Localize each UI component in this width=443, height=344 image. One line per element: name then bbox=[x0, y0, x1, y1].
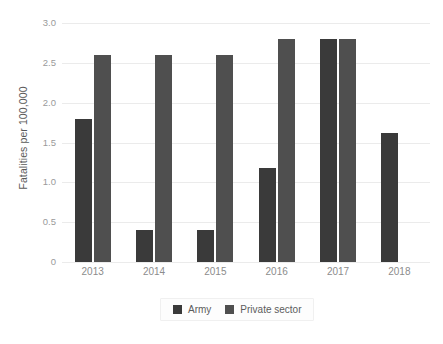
bar-group bbox=[259, 23, 295, 262]
legend-swatch-icon bbox=[225, 305, 234, 314]
y-tick-label: 1.5 bbox=[26, 138, 56, 148]
bar-private-sector-2015 bbox=[216, 55, 233, 262]
y-tick-label: 0.5 bbox=[26, 217, 56, 227]
gridline bbox=[62, 23, 430, 24]
legend-label: Private sector bbox=[240, 304, 301, 315]
x-tick-label-2014: 2014 bbox=[127, 265, 181, 279]
bar-army-2018 bbox=[381, 133, 398, 262]
bar-group bbox=[320, 23, 356, 262]
bar-private-sector-2014 bbox=[155, 55, 172, 262]
bar-army-2015 bbox=[197, 230, 214, 262]
legend-entry-private-sector[interactable]: Private sector bbox=[225, 304, 301, 315]
gridline bbox=[62, 222, 430, 223]
x-axis-tick-labels: 201320142015201620172018 bbox=[62, 265, 430, 281]
x-tick-label-2017: 2017 bbox=[311, 265, 365, 279]
x-tick-label-2016: 2016 bbox=[250, 265, 304, 279]
y-tick-label: 2.5 bbox=[26, 58, 56, 68]
gridline bbox=[62, 103, 430, 104]
y-tick-label: 0 bbox=[26, 257, 56, 267]
bar-army-2014 bbox=[136, 230, 153, 262]
bar-private-sector-2016 bbox=[278, 39, 295, 262]
plot-area bbox=[62, 23, 430, 262]
y-tick-label: 2.0 bbox=[26, 98, 56, 108]
gridline bbox=[62, 182, 430, 183]
bar-private-sector-2013 bbox=[94, 55, 111, 262]
bar-group bbox=[381, 23, 417, 262]
bar-army-2013 bbox=[75, 119, 92, 262]
legend-entry-army[interactable]: Army bbox=[173, 304, 211, 315]
bar-group bbox=[136, 23, 172, 262]
gridline bbox=[62, 143, 430, 144]
y-tick-label: 1.0 bbox=[26, 177, 56, 187]
bar-army-2017 bbox=[320, 39, 337, 262]
x-tick-label-2015: 2015 bbox=[188, 265, 242, 279]
x-tick-label-2013: 2013 bbox=[66, 265, 120, 279]
gridline bbox=[62, 63, 430, 64]
bar-chart: Fatalities per 100,000 00.51.01.52.02.53… bbox=[0, 0, 443, 344]
chart-legend: ArmyPrivate sector bbox=[160, 298, 314, 321]
x-tick-label-2018: 2018 bbox=[372, 265, 426, 279]
bar-group bbox=[197, 23, 233, 262]
y-axis-tick-labels: 00.51.01.52.02.53.0 bbox=[22, 23, 56, 262]
bar-group bbox=[75, 23, 111, 262]
gridline bbox=[62, 262, 430, 263]
legend-swatch-icon bbox=[173, 305, 182, 314]
legend-label: Army bbox=[188, 304, 211, 315]
bar-army-2016 bbox=[259, 168, 276, 262]
bar-private-sector-2017 bbox=[339, 39, 356, 262]
y-tick-label: 3.0 bbox=[26, 18, 56, 28]
